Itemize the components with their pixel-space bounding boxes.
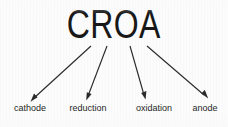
label-cathode: cathode: [14, 103, 46, 114]
label-reduction: reduction: [69, 103, 106, 114]
label-oxidation: oxidation: [136, 103, 172, 114]
arrow-c-to-cathode-icon: [31, 46, 92, 102]
label-anode: anode: [192, 103, 217, 114]
arrow-r-to-reduction-icon: [86, 46, 107, 100]
croa-mnemonic-diagram: CROA cathode reduction oxidation anode: [0, 0, 228, 127]
arrow-a-to-anode-icon: [147, 46, 208, 99]
arrow-o-to-oxidation-icon: [130, 46, 146, 99]
